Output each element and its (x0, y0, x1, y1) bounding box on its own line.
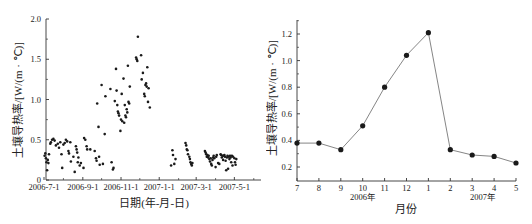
data-marker (404, 53, 409, 58)
data-point (82, 167, 85, 170)
data-point (187, 153, 190, 156)
data-point (47, 159, 50, 162)
data-point (149, 106, 152, 109)
y-tick-label: 2.0 (30, 14, 41, 24)
data-point (235, 158, 238, 161)
data-marker (470, 152, 475, 157)
data-point (123, 122, 126, 125)
data-marker (294, 141, 299, 146)
data-point (95, 157, 98, 160)
data-point (174, 158, 177, 161)
data-point (86, 148, 89, 151)
data-point (145, 82, 148, 85)
data-point (60, 153, 63, 156)
data-point (43, 155, 46, 158)
x-tick-label: 2007-1-1 (144, 182, 175, 192)
data-point (115, 89, 118, 92)
data-point (124, 104, 127, 107)
data-point (103, 133, 106, 136)
data-point (234, 161, 237, 164)
data-point (112, 167, 115, 170)
data-point (67, 150, 70, 153)
x-axis: 78910111212345 (295, 178, 518, 193)
data-point (73, 171, 76, 174)
x-tick-label: 2006-7-1 (28, 182, 59, 192)
data-point (116, 104, 119, 107)
data-point (104, 95, 107, 98)
data-point (207, 155, 210, 158)
data-marker (338, 147, 343, 152)
data-point (191, 162, 194, 165)
data-point (75, 148, 78, 151)
data-point (72, 155, 75, 158)
x-tick-label: 7 (295, 183, 299, 193)
data-point (136, 60, 139, 63)
data-point (140, 54, 143, 57)
data-point (147, 101, 150, 104)
data-point (142, 72, 145, 75)
data-point (59, 141, 62, 144)
line-chart: 土壤导热率/[W/(m · ℃)] 0.20.40.60.81.01.2 789… (266, 0, 532, 224)
data-point (44, 152, 47, 155)
y-tick-label: 0.5 (30, 135, 41, 145)
y-tick-label: 1.2 (281, 29, 292, 39)
data-point (143, 93, 146, 96)
y-axis-title-text: 土壤导热率/[W/(m · ℃)] (11, 42, 25, 158)
series-line (297, 33, 516, 163)
data-point (117, 112, 120, 115)
data-point (89, 148, 92, 151)
data-point (224, 159, 227, 162)
scatter-chart-panel: 土壤导热率/[W/(m · ℃)] 00.51.01.52.0 2006-7-1… (0, 0, 266, 224)
y-tick-label: 0.4 (281, 135, 292, 145)
x-tick-label: 2006-11-1 (103, 182, 138, 192)
data-point (46, 169, 49, 172)
series-markers (294, 30, 518, 165)
x-axis: 2006-7-12006-9-12006-11-12007-1-12007-3-… (28, 177, 261, 192)
y-tick-label: 0.6 (281, 109, 292, 119)
y-tick-label: 1.5 (30, 54, 41, 64)
x-tick-label: 8 (317, 183, 321, 193)
data-point (128, 102, 131, 105)
data-point (58, 147, 61, 150)
x-axis-title: 月份 (395, 203, 417, 215)
data-point (77, 161, 80, 164)
x-axis-title: 日期(年-月-日) (119, 196, 189, 210)
data-point (96, 102, 99, 105)
data-point (53, 139, 56, 142)
data-point (125, 108, 128, 111)
y-tick-label: 0.2 (281, 162, 292, 172)
data-point (50, 141, 53, 144)
data-point (230, 161, 233, 164)
data-point (84, 139, 87, 142)
x-tick-label: 2007-5-1 (219, 182, 250, 192)
scatter-points (43, 35, 237, 173)
data-point (98, 155, 101, 158)
y-axis: 0.20.40.60.81.01.2 (281, 20, 300, 181)
data-point (171, 149, 174, 152)
data-point (147, 87, 150, 90)
data-point (227, 167, 230, 170)
data-point (69, 141, 72, 144)
data-point (127, 64, 130, 67)
x-tick-label: 2007-3-1 (181, 182, 212, 192)
data-point (231, 164, 234, 167)
x-tick-label: 2 (448, 183, 452, 193)
data-point (218, 163, 221, 166)
data-point (66, 140, 69, 143)
data-point (234, 163, 237, 166)
data-point (78, 164, 81, 167)
data-point (212, 155, 215, 158)
data-point (146, 66, 149, 69)
x-tick-label: 12 (402, 183, 411, 193)
data-point (114, 100, 117, 103)
data-point (76, 151, 79, 154)
x-tick-label: 5 (514, 183, 518, 193)
data-point (209, 160, 212, 163)
data-point (77, 156, 80, 159)
y-axis-title: 土壤导热率/[W/(m · ℃)] (11, 42, 25, 158)
data-point (211, 164, 214, 167)
data-point (170, 164, 173, 167)
data-point (172, 154, 175, 157)
data-point (119, 130, 122, 133)
x-tick-label: 11 (381, 183, 389, 193)
